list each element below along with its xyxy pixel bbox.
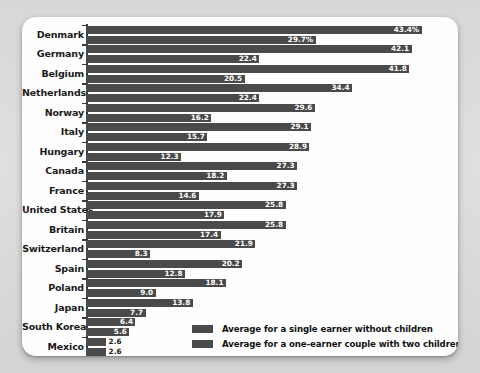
category-label: Italy: [22, 122, 84, 142]
bar: 22.4: [86, 55, 259, 63]
bar-value-label: 20.5: [224, 75, 245, 83]
legend-label: Average for a single earner without chil…: [222, 324, 433, 334]
bar: 17.9: [86, 211, 224, 219]
bar-value-label: 13.8: [172, 299, 193, 307]
bar-value-label: 8.3: [135, 250, 150, 258]
bar-group: 18.19.0: [86, 279, 434, 299]
bar-value-label: 21.9: [235, 240, 256, 248]
bar-value-label: 25.8: [265, 201, 286, 209]
bar-value-label: 2.6: [106, 348, 121, 356]
chart-row: United States25.817.9: [22, 201, 458, 221]
chart-row: Japan13.87.7: [22, 299, 458, 319]
bar: 21.9: [86, 240, 255, 248]
bar-group: 21.98.3: [86, 240, 434, 260]
bar-value-label: 6.4: [120, 318, 135, 326]
chart-row: Italy29.115.7: [22, 123, 458, 143]
bar: 27.3: [86, 162, 297, 170]
bar: 27.3: [86, 182, 297, 190]
bar-value-label: 9.0: [140, 289, 155, 297]
legend-swatch: [192, 340, 213, 349]
chart-row: Hungary28.912.3: [22, 143, 458, 163]
category-label: South Korea: [22, 317, 84, 337]
bar-value-label: 25.8: [265, 221, 286, 229]
bar: 12.3: [86, 153, 181, 161]
bar-value-label: 29.7%: [288, 36, 316, 44]
legend-swatch: [192, 325, 213, 334]
bar-value-label: 18.2: [206, 172, 227, 180]
chart-row: Poland18.19.0: [22, 279, 458, 299]
bar: 43.4%: [86, 26, 422, 34]
bar-value-label: 27.3: [277, 182, 298, 190]
bar-group: 28.912.3: [86, 143, 434, 163]
category-label: Hungary: [22, 142, 84, 162]
legend-item: Average for a single earner without chil…: [192, 322, 454, 336]
chart-row: France27.314.6: [22, 182, 458, 202]
bar: 22.4: [86, 94, 259, 102]
chart-row: Norway29.616.2: [22, 104, 458, 124]
bar: 29.1: [86, 123, 311, 131]
bar-group: 29.616.2: [86, 104, 434, 124]
bar-group: 42.122.4: [86, 45, 434, 65]
bar-value-label: 5.6: [114, 328, 129, 336]
bar-group: 43.4%29.7%: [86, 26, 434, 46]
bar: 20.5: [86, 75, 245, 83]
bar-value-label: 7.7: [130, 309, 145, 317]
bar: 18.2: [86, 172, 227, 180]
bar: 29.7%: [86, 36, 316, 44]
bar-value-label: 18.1: [205, 279, 226, 287]
bar-value-label: 12.8: [164, 270, 185, 278]
bar: 8.3: [86, 250, 150, 258]
bar-value-label: 17.9: [204, 211, 225, 219]
bar-value-label: 20.2: [222, 260, 243, 268]
bar: 18.1: [86, 279, 226, 287]
bar-group: 25.817.9: [86, 201, 434, 221]
bar: 25.8: [86, 221, 286, 229]
bar-value-label: 29.6: [294, 104, 315, 112]
bar-group: 29.115.7: [86, 123, 434, 143]
category-label: Spain: [22, 259, 84, 279]
chart-row: Netherlands34.422.4: [22, 84, 458, 104]
bar: 41.8: [86, 65, 409, 73]
bar: 42.1: [86, 45, 412, 53]
bar-value-label: 12.3: [161, 153, 182, 161]
bar-group: 27.318.2: [86, 162, 434, 182]
bar-group: 27.314.6: [86, 182, 434, 202]
category-label: Denmark: [22, 25, 84, 45]
bar: 2.6: [86, 348, 106, 356]
bar: 6.4: [86, 318, 135, 326]
bar: 9.0: [86, 289, 156, 297]
bar-value-label: 43.4%: [394, 26, 422, 34]
bar-value-label: 27.3: [277, 162, 298, 170]
bar-value-label: 34.4: [332, 84, 353, 92]
bar-group: 25.817.4: [86, 221, 434, 241]
category-label: France: [22, 181, 84, 201]
chart-row: Switzerland21.98.3: [22, 240, 458, 260]
bar-value-label: 29.1: [291, 123, 312, 131]
bar-chart-plot: Denmark43.4%29.7%Germany42.122.4Belgium4…: [22, 17, 458, 356]
bar-group: 20.212.8: [86, 260, 434, 280]
category-label: Switzerland: [22, 239, 84, 259]
category-label: Japan: [22, 298, 84, 318]
chart-row: Belgium41.820.5: [22, 65, 458, 85]
category-label: Canada: [22, 161, 84, 181]
bar: 34.4: [86, 84, 352, 92]
chart-card: Denmark43.4%29.7%Germany42.122.4Belgium4…: [22, 17, 458, 356]
bar-group: 41.820.5: [86, 65, 434, 85]
bar-value-label: 2.6: [106, 338, 121, 346]
category-label: Germany: [22, 44, 84, 64]
bar-value-label: 41.8: [389, 65, 410, 73]
chart-row: Canada27.318.2: [22, 162, 458, 182]
category-label: Norway: [22, 103, 84, 123]
bar: 12.8: [86, 270, 185, 278]
category-label: Belgium: [22, 64, 84, 84]
bar-value-label: 22.4: [239, 94, 260, 102]
bar-value-label: 28.9: [289, 143, 310, 151]
bar: 2.6: [86, 338, 106, 346]
bar: 7.7: [86, 309, 146, 317]
category-label: Mexico: [22, 337, 84, 357]
chart-legend: Average for a single earner without chil…: [192, 322, 454, 352]
bar-group: 34.422.4: [86, 84, 434, 104]
bar: 17.4: [86, 231, 221, 239]
category-label: Poland: [22, 278, 84, 298]
chart-row: Britain25.817.4: [22, 221, 458, 241]
